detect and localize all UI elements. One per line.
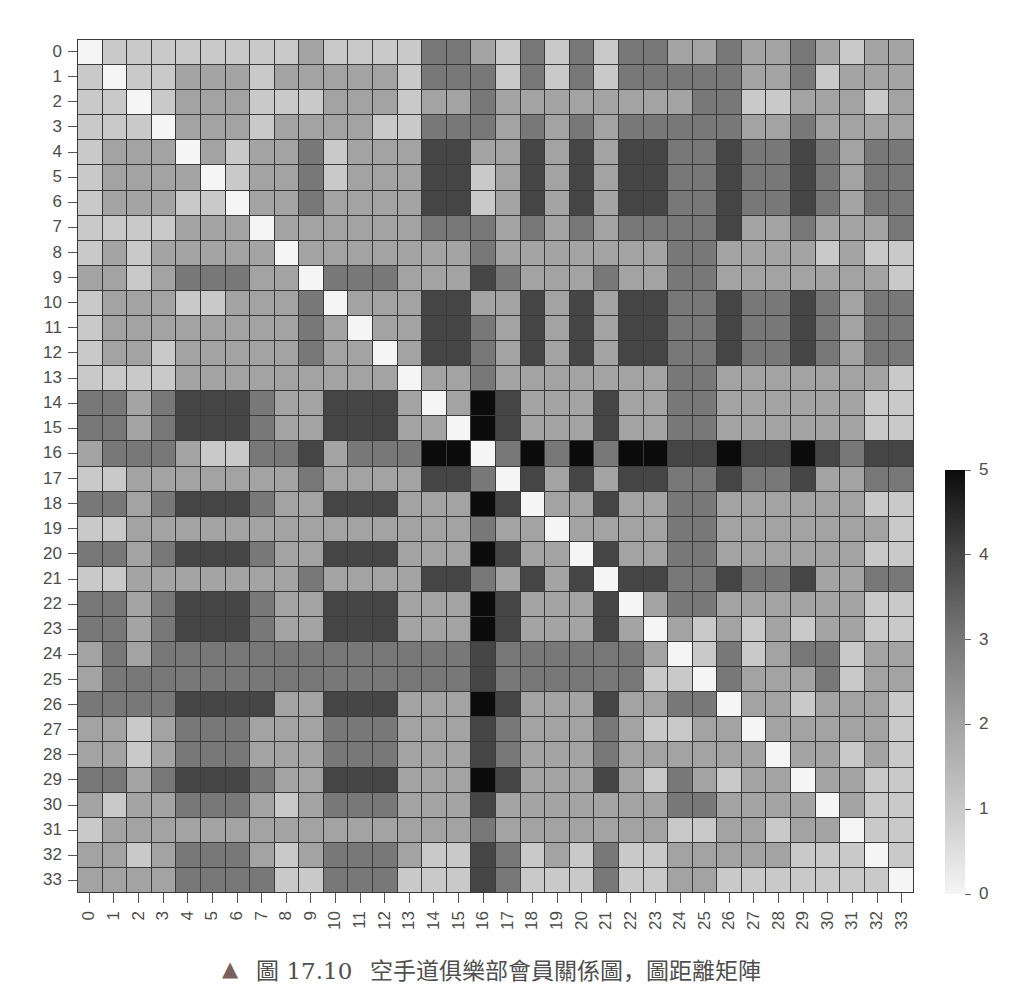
heatmap-cell xyxy=(889,592,913,616)
heatmap-cell xyxy=(693,441,717,465)
heatmap-cell xyxy=(791,868,815,892)
x-tick-label: 13 xyxy=(400,911,418,930)
heatmap-cell xyxy=(644,216,668,240)
y-tick-label: 8 xyxy=(53,243,62,263)
colorbar-tick-label: 4 xyxy=(979,545,988,565)
triangle-marker-icon: ▲ xyxy=(222,957,238,981)
heatmap-cell xyxy=(570,191,594,215)
heatmap-cell xyxy=(373,692,397,716)
heatmap-cell xyxy=(570,793,594,817)
heatmap-cell xyxy=(176,65,200,89)
heatmap-cell xyxy=(398,366,422,390)
heatmap-cell xyxy=(250,115,274,139)
heatmap-cell xyxy=(791,768,815,792)
heatmap-cell xyxy=(889,140,913,164)
heatmap-cell xyxy=(570,717,594,741)
heatmap-cell xyxy=(521,617,545,641)
heatmap-cell xyxy=(496,542,520,566)
heatmap-cell xyxy=(348,115,372,139)
y-tick-label: 3 xyxy=(53,117,62,137)
y-tick-label: 2 xyxy=(53,92,62,112)
heatmap-cell xyxy=(816,768,840,792)
heatmap-cell xyxy=(570,517,594,541)
heatmap-cell xyxy=(176,742,200,766)
heatmap-cell xyxy=(176,818,200,842)
heatmap-cell xyxy=(816,843,840,867)
heatmap-cell xyxy=(250,768,274,792)
heatmap-cell xyxy=(766,291,790,315)
heatmap-cell xyxy=(152,391,176,415)
colorbar-tick-mark xyxy=(965,554,971,555)
heatmap-cell xyxy=(693,567,717,591)
heatmap-cell xyxy=(103,140,127,164)
heatmap-cell xyxy=(693,40,717,64)
heatmap-cell xyxy=(791,140,815,164)
x-tick: 14 xyxy=(425,893,443,930)
heatmap-cell xyxy=(103,517,127,541)
y-tick-label: 25 xyxy=(43,670,62,690)
y-tick: 27 xyxy=(43,720,77,740)
y-tick: 20 xyxy=(43,544,77,564)
y-tick-mark xyxy=(68,51,77,52)
heatmap-cell xyxy=(816,517,840,541)
heatmap-cell xyxy=(324,517,348,541)
x-tick-label: 8 xyxy=(277,911,295,920)
heatmap-cell xyxy=(226,366,250,390)
heatmap-cell xyxy=(545,291,569,315)
heatmap-cell xyxy=(348,441,372,465)
heatmap-cell xyxy=(250,517,274,541)
x-tick: 11 xyxy=(351,893,369,929)
heatmap-cell xyxy=(865,115,889,139)
heatmap-cell xyxy=(78,567,102,591)
heatmap-cell xyxy=(791,717,815,741)
heatmap-cell xyxy=(521,391,545,415)
heatmap-cell xyxy=(717,717,741,741)
heatmap-cell xyxy=(275,492,299,516)
heatmap-cell xyxy=(545,843,569,867)
heatmap-cell xyxy=(840,592,864,616)
heatmap-cell xyxy=(717,542,741,566)
heatmap-cell xyxy=(594,40,618,64)
heatmap-cell xyxy=(668,140,692,164)
y-tick-label: 15 xyxy=(43,418,62,438)
heatmap-cell xyxy=(840,567,864,591)
heatmap-cell xyxy=(103,467,127,491)
heatmap-cell xyxy=(865,291,889,315)
heatmap-cell xyxy=(373,717,397,741)
heatmap-cell xyxy=(226,667,250,691)
x-tick-label: 2 xyxy=(130,911,148,920)
heatmap-cell xyxy=(324,667,348,691)
heatmap-cell xyxy=(447,140,471,164)
heatmap-cell xyxy=(299,642,323,666)
heatmap-cell xyxy=(299,692,323,716)
heatmap-cell xyxy=(398,115,422,139)
heatmap-cell xyxy=(791,467,815,491)
heatmap-cell xyxy=(152,341,176,365)
heatmap-cell xyxy=(348,868,372,892)
heatmap-cell xyxy=(889,742,913,766)
heatmap-cell xyxy=(668,165,692,189)
heatmap-cell xyxy=(594,793,618,817)
heatmap-cell xyxy=(865,542,889,566)
heatmap-cell xyxy=(152,441,176,465)
heatmap-cell xyxy=(422,818,446,842)
heatmap-cell xyxy=(865,266,889,290)
heatmap-cell xyxy=(250,366,274,390)
heatmap-cell xyxy=(373,492,397,516)
heatmap-cell xyxy=(865,391,889,415)
heatmap-cell xyxy=(324,692,348,716)
heatmap-cell xyxy=(348,642,372,666)
heatmap-cell xyxy=(324,441,348,465)
heatmap-cell xyxy=(619,391,643,415)
heatmap-cell xyxy=(545,667,569,691)
heatmap-cell xyxy=(422,416,446,440)
heatmap-cell xyxy=(766,692,790,716)
colorbar-tick-label: 1 xyxy=(979,799,988,819)
heatmap-cell xyxy=(545,115,569,139)
heatmap-cell xyxy=(644,793,668,817)
heatmap-cell xyxy=(127,492,151,516)
heatmap-cell xyxy=(742,843,766,867)
heatmap-cell xyxy=(619,291,643,315)
heatmap-cell xyxy=(348,742,372,766)
heatmap-cell xyxy=(496,115,520,139)
